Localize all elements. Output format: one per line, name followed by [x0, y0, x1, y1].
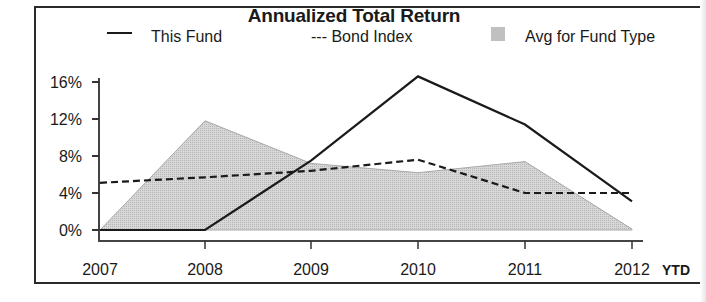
x-tick-label: 2012 [614, 261, 650, 278]
y-tick-label: 8% [59, 148, 82, 165]
x-tick-label: 2009 [293, 261, 329, 278]
x-tick-label: 2008 [187, 261, 223, 278]
y-tick-label: 16% [50, 74, 82, 91]
ytd-label: YTD [662, 262, 690, 278]
y-tick-label: 0% [59, 222, 82, 239]
x-tick-label: 2010 [400, 261, 436, 278]
avg-fund-type-area [100, 121, 632, 230]
x-tick-label: 2011 [508, 261, 543, 278]
x-ticks: 200720082009201020112012 [82, 241, 650, 278]
y-ticks: 0%4%8%12%16% [50, 74, 99, 239]
x-tick-label: 2007 [82, 261, 118, 278]
y-tick-label: 4% [59, 185, 82, 202]
chart-plot: 0%4%8%12%16% 200720082009201020112012 YT… [0, 0, 706, 302]
y-tick-label: 12% [50, 111, 82, 128]
